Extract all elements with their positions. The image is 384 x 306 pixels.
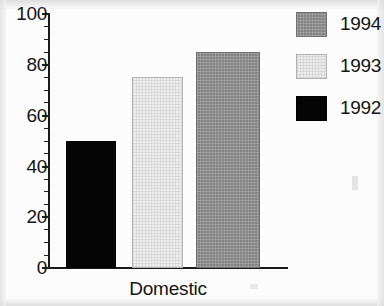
bar-1993-domestic xyxy=(132,77,183,268)
legend-item-1993[interactable]: 1993 xyxy=(296,54,380,79)
y-tick-minor xyxy=(44,179,50,180)
y-tick-minor xyxy=(44,102,50,103)
legend-label-1994: 1994 xyxy=(340,13,381,35)
y-tick-minor xyxy=(44,26,50,27)
legend-label-1993: 1993 xyxy=(340,55,381,77)
y-tick-minor xyxy=(44,141,50,142)
y-tick-minor xyxy=(44,39,50,40)
y-tick-minor xyxy=(44,229,50,230)
bar-1994-domestic xyxy=(196,52,260,268)
y-tick-minor xyxy=(44,204,50,205)
legend-item-1994[interactable]: 1994 xyxy=(296,12,380,37)
y-axis-label-40: 40 xyxy=(26,156,47,178)
y-axis-label-60: 60 xyxy=(26,105,47,127)
y-tick-minor xyxy=(44,242,50,243)
y-tick-minor xyxy=(44,153,50,154)
y-tick-minor xyxy=(44,191,50,192)
legend-item-1992[interactable]: 1992 xyxy=(296,96,380,121)
y-axis-label-80: 80 xyxy=(26,54,47,76)
x-axis-category-label: Domestic xyxy=(48,278,288,300)
chart-legend: 1994 1993 1992 xyxy=(296,12,380,138)
y-tick-minor xyxy=(44,90,50,91)
y-axis-label-100: 100 xyxy=(16,3,47,25)
legend-swatch-1992 xyxy=(296,96,327,121)
bar-1992-domestic xyxy=(66,141,116,268)
y-axis-label-20: 20 xyxy=(26,206,47,228)
y-axis-label-0: 0 xyxy=(37,257,47,279)
legend-swatch-1993 xyxy=(296,54,327,79)
legend-swatch-1994 xyxy=(296,12,327,37)
y-tick-minor xyxy=(44,255,50,256)
y-tick-minor xyxy=(44,77,50,78)
legend-label-1992: 1992 xyxy=(340,97,381,119)
y-tick-minor xyxy=(44,52,50,53)
y-tick-minor xyxy=(44,128,50,129)
chart-figure: 100 80 60 40 20 0 Domestic xyxy=(0,0,384,306)
